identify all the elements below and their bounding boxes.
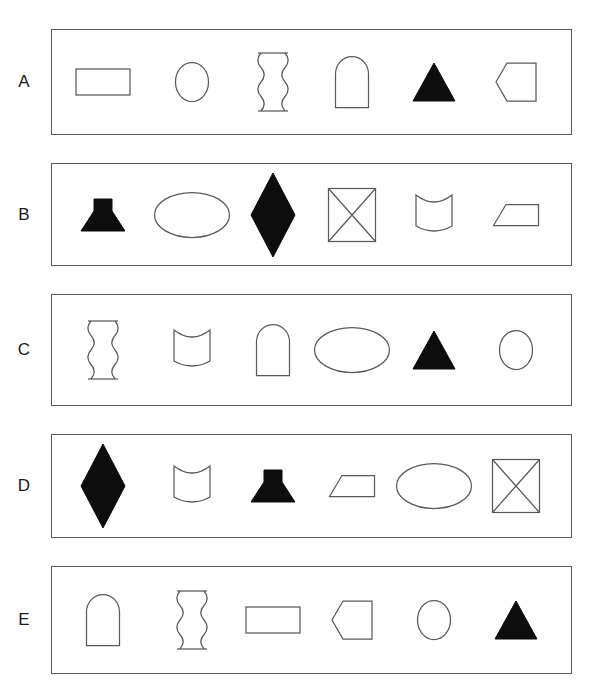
shape-arch xyxy=(58,566,148,674)
shape-concave-barrel xyxy=(389,163,479,266)
shape-trapezoid xyxy=(307,434,397,538)
shape-filled-anvil xyxy=(228,434,318,538)
shape-filled-diamond xyxy=(228,163,318,266)
shape-figure: ABCDE xyxy=(0,0,603,698)
shape-rectangle xyxy=(58,29,148,135)
shape-left-pointing-pentagon xyxy=(471,29,561,135)
shape-filled-anvil xyxy=(58,163,148,266)
shape-circle xyxy=(389,566,479,674)
shape-arch xyxy=(228,294,318,406)
shape-left-pointing-pentagon xyxy=(307,566,397,674)
shape-filled-triangle xyxy=(471,566,561,674)
shape-concave-barrel xyxy=(147,294,237,406)
shape-crossed-square xyxy=(307,163,397,266)
row-label-c: C xyxy=(12,341,36,358)
shape-arch xyxy=(307,29,397,135)
shape-filled-diamond xyxy=(58,434,148,538)
shape-crossed-square xyxy=(471,434,561,538)
shape-wide-ellipse xyxy=(147,163,237,266)
shape-trapezoid xyxy=(471,163,561,266)
row-label-b: B xyxy=(12,206,36,223)
shape-wavy-sided-column xyxy=(58,294,148,406)
shape-filled-triangle xyxy=(389,29,479,135)
row-label-a: A xyxy=(12,73,36,90)
shape-circle xyxy=(471,294,561,406)
shape-wide-ellipse xyxy=(389,434,479,538)
row-label-d: D xyxy=(12,477,36,494)
shape-wide-ellipse xyxy=(307,294,397,406)
shape-concave-barrel xyxy=(147,434,237,538)
row-label-e: E xyxy=(12,611,36,628)
shape-circle xyxy=(147,29,237,135)
shape-wavy-sided-column xyxy=(147,566,237,674)
shape-wavy-sided-column xyxy=(228,29,318,135)
shape-filled-triangle xyxy=(389,294,479,406)
shape-rectangle xyxy=(228,566,318,674)
